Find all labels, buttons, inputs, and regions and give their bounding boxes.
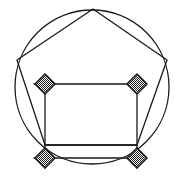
diamond-top-right-icon: [127, 74, 147, 94]
diagram-svg: [0, 0, 182, 185]
inner-rectangle: [45, 84, 137, 145]
inscribed-pentagon: [17, 9, 167, 145]
diamond-bottom-right-icon: [127, 148, 147, 168]
diamond-top-left-icon: [35, 74, 55, 94]
diagram-canvas: [0, 0, 182, 185]
diamond-bottom-left-icon: [35, 148, 55, 168]
